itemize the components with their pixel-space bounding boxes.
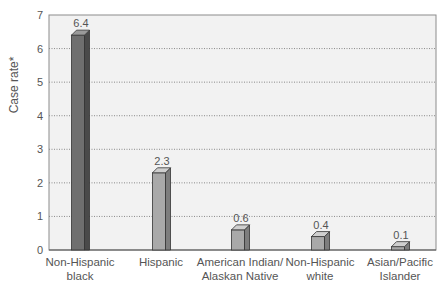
x-category-label: Asian/Pacific [367, 256, 433, 268]
x-category-label: Alaskan Native [202, 270, 279, 282]
bar-side [85, 30, 90, 250]
x-category-label: white [306, 270, 334, 282]
chart-canvas: 012345676.4Non-Hispanicblack2.3Hispanic0… [0, 0, 439, 289]
y-tick-label: 0 [37, 244, 43, 256]
y-tick-label: 5 [37, 76, 43, 88]
bar-chart: Case rate* 012345676.4Non-Hispanicblack2… [0, 0, 439, 289]
y-axis-title: Case rate* [7, 57, 21, 114]
data-label: 6.4 [73, 17, 88, 29]
x-category-label: Non-Hispanic [45, 256, 114, 268]
x-category-label: Non-Hispanic [285, 256, 354, 268]
bar-side [166, 168, 171, 250]
y-tick-label: 4 [37, 110, 43, 122]
bar [312, 237, 325, 250]
x-category-label: Hispanic [139, 256, 183, 268]
bar [72, 35, 85, 250]
data-label: 0.4 [313, 219, 328, 231]
bar [153, 173, 166, 250]
x-category-label: black [67, 270, 94, 282]
data-label: 2.3 [154, 155, 169, 167]
x-category-label: American Indian/ [197, 256, 284, 268]
bar [232, 230, 245, 250]
data-label: 0.1 [393, 229, 408, 241]
y-tick-label: 2 [37, 177, 43, 189]
y-tick-label: 1 [37, 210, 43, 222]
y-axis-label: Case rate* [0, 40, 32, 130]
bar [392, 247, 405, 250]
y-tick-label: 3 [37, 143, 43, 155]
x-category-label: Islander [380, 270, 421, 282]
data-label: 0.6 [233, 212, 248, 224]
y-tick-label: 7 [37, 9, 43, 21]
y-tick-label: 6 [37, 43, 43, 55]
